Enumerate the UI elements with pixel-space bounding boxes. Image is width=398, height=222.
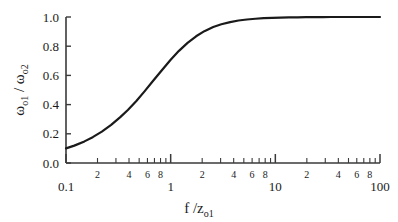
x-major-tick-label-3: 100 <box>370 179 390 194</box>
y-axis-title-subscript-2: o2 <box>19 64 30 74</box>
y-axis-title-omega-1: ω <box>11 106 27 116</box>
y-tick-label-4: 0.8 <box>43 39 59 54</box>
y-axis-title-subscript-1: o1 <box>19 96 30 106</box>
x-minor-tick-label-3: 8 <box>158 169 163 180</box>
y-tick-label-3: 0.6 <box>43 68 60 83</box>
x-minor-tick-label-4: 2 <box>200 169 205 180</box>
x-minor-tick-label-2: 6 <box>145 169 150 180</box>
x-minor-tick-label-10: 6 <box>354 169 359 180</box>
x-minor-tick-label-1: 4 <box>127 169 132 180</box>
y-axis-title-slash: / <box>11 84 27 96</box>
figure-container: 0.1110100 246824682468 0.00.20.40.60.81.… <box>0 0 398 222</box>
x-minor-tick-label-9: 4 <box>336 169 341 180</box>
x-major-tick-label-0: 0.1 <box>58 179 74 194</box>
y-axis-title-omega-2: ω <box>11 74 27 84</box>
x-minor-tick-label-6: 6 <box>250 169 255 180</box>
x-minor-tick-label-11: 8 <box>367 169 372 180</box>
x-major-tick-label-2: 10 <box>269 179 282 194</box>
x-axis-title-subscript: o1 <box>204 208 214 219</box>
x-minor-tick-label-7: 8 <box>263 169 268 180</box>
x-minor-tick-label-5: 4 <box>231 169 236 180</box>
y-tick-label-5: 1.0 <box>43 10 59 25</box>
x-minor-tick-label-8: 2 <box>304 169 309 180</box>
y-tick-label-2: 0.4 <box>43 97 60 112</box>
x-major-tick-label-1: 1 <box>167 179 174 194</box>
x-axis-title-main: f /z <box>184 200 204 216</box>
y-tick-label-0: 0.0 <box>43 156 59 171</box>
line-chart: 0.1110100 246824682468 0.00.20.40.60.81.… <box>0 0 398 222</box>
x-minor-tick-label-0: 2 <box>95 169 100 180</box>
y-tick-label-1: 0.2 <box>43 126 59 141</box>
